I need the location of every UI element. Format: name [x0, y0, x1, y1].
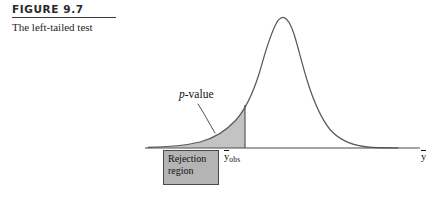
y-obs-base: y — [224, 151, 229, 162]
y-obs-tick-label: yobs — [224, 151, 240, 164]
y-obs-subscript: obs — [229, 155, 240, 164]
p-value-text: -value — [185, 88, 214, 100]
rejection-region-label: Rejection region — [168, 153, 218, 177]
p-value-leader-line — [198, 104, 215, 133]
rejection-region-box: Rejection region — [163, 150, 219, 185]
y-bar-symbol: y — [421, 151, 426, 162]
p-value-shaded-region — [148, 105, 245, 148]
plot-area: Rejection region p-value yobs y — [0, 0, 437, 201]
p-value-label: p-value — [179, 88, 213, 100]
figure-container: FIGURE 9.7 The left-tailed test Rejectio… — [0, 0, 437, 201]
x-axis-label: y — [421, 151, 426, 162]
normal-curve — [148, 18, 398, 148]
